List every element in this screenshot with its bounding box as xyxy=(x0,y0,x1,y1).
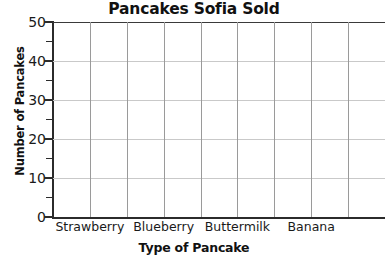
plot-area xyxy=(53,22,385,217)
gridline-horizontal xyxy=(53,22,385,23)
gridline-horizontal xyxy=(53,178,385,179)
y-axis-tick-label-host: 30 xyxy=(0,93,46,107)
y-axis-tick-label: 20 xyxy=(2,132,46,146)
gridline-vertical xyxy=(348,22,349,217)
gridline-vertical xyxy=(274,22,275,217)
y-axis-tick-label-host: 10 xyxy=(0,171,46,185)
gridline-horizontal xyxy=(53,139,385,140)
y-axis-tick-label: 10 xyxy=(2,171,46,185)
gridline-horizontal xyxy=(53,61,385,62)
gridline-vertical xyxy=(164,22,165,217)
x-axis-tick-label: Banana xyxy=(261,219,361,235)
x-axis-title: Type of Pancake xyxy=(0,240,388,255)
chart-title: Pancakes Sofia Sold xyxy=(0,0,388,19)
gridline-vertical xyxy=(311,22,312,217)
gridline-vertical xyxy=(127,22,128,217)
gridline-horizontal xyxy=(53,100,385,101)
y-axis-tick-label: 40 xyxy=(2,54,46,68)
bar-chart: Pancakes Sofia Sold Number of Pancakes 0… xyxy=(0,0,388,260)
y-axis-tick-label: 30 xyxy=(2,93,46,107)
gridline-vertical xyxy=(201,22,202,217)
gridline-vertical xyxy=(237,22,238,217)
y-axis-tick-label-host: 40 xyxy=(0,54,46,68)
y-axis-tick-label: 50 xyxy=(2,15,46,29)
gridline-vertical xyxy=(90,22,91,217)
y-axis-tick-label-host: 50 xyxy=(0,15,46,29)
y-axis-tick-label-host: 20 xyxy=(0,132,46,146)
